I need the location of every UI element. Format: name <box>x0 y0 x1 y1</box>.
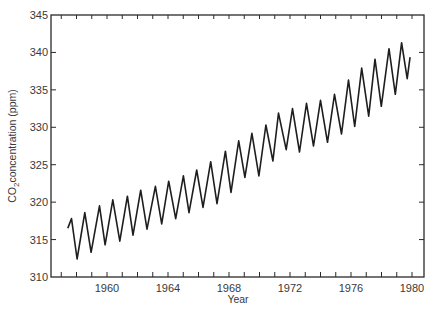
y-tick-label: 330 <box>30 121 48 133</box>
y-tick-label: 315 <box>30 234 48 246</box>
co2-series-line <box>68 43 410 259</box>
y-axis-label-co: CO <box>6 187 18 203</box>
y-axis-label-rest: concentration (ppm) <box>6 89 18 182</box>
x-tick-label: 1976 <box>339 282 363 294</box>
x-axis-label: Year <box>227 293 249 305</box>
x-tick-label: 1972 <box>278 282 302 294</box>
x-tick-label: 1964 <box>156 282 180 294</box>
y-tick-label: 345 <box>30 9 48 21</box>
co2-line-chart: 310315320325330335340345 196019641968197… <box>0 0 433 309</box>
y-tick-label: 310 <box>30 271 48 283</box>
x-tick-label: 1960 <box>95 282 119 294</box>
y-tick-label: 340 <box>30 46 48 58</box>
y-tick-label: 335 <box>30 84 48 96</box>
y-tick-label: 325 <box>30 159 48 171</box>
x-tick-label: 1980 <box>400 282 424 294</box>
y-axis-label: CO2concentration (ppm) <box>6 89 21 203</box>
y-tick-label: 320 <box>30 196 48 208</box>
x-axis-ticks: 196019641968197219761980 <box>61 15 424 294</box>
